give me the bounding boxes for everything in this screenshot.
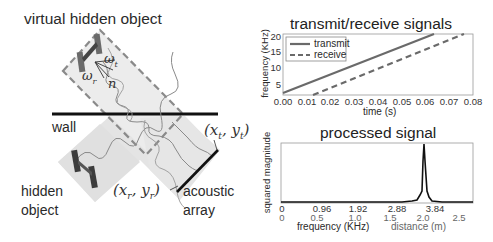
chart-processed-signal: processed signal 0 0.96 1.92 2.88 3.84 0… (252, 121, 493, 242)
svg-text:0.03: 0.03 (345, 96, 364, 107)
chart2-plot: 0 0.96 1.92 2.88 3.84 0 0.5 1.0 1.5 2.0 … (252, 121, 493, 242)
svg-text:0.06: 0.06 (416, 96, 435, 107)
svg-text:15: 15 (270, 46, 281, 57)
svg-text:0: 0 (279, 212, 284, 223)
chart1-yticks: 20 15 10 5 (270, 31, 281, 90)
label-wall: wall (52, 119, 76, 135)
svg-text:0.02: 0.02 (321, 96, 340, 107)
label-transmitter-coord: (xt, yt) (204, 121, 249, 141)
svg-text:2.5: 2.5 (452, 212, 465, 223)
svg-text:0.00: 0.00 (274, 96, 293, 107)
chart1-plot: 20 15 10 5 0.00 0.01 0.02 0.03 0.04 0.05… (252, 0, 493, 121)
label-normal: n (108, 76, 116, 91)
label-virtual-hidden-object: virtual hidden object (24, 10, 162, 28)
legend-receive: receive (314, 49, 346, 60)
label-acoustic-array-line1: acoustic (183, 183, 234, 199)
chart2-ylabel: squared magnitude (261, 127, 272, 219)
svg-text:5: 5 (276, 79, 281, 90)
chart1-xlabel: time (s) (363, 106, 396, 117)
svg-text:10: 10 (270, 62, 281, 73)
label-receiver-coord: (xr, yr) (113, 181, 160, 201)
svg-text:0.07: 0.07 (440, 96, 459, 107)
label-omega-r: ωr (82, 68, 96, 86)
scene-diagram: virtual hidden object wall hidden object… (0, 0, 262, 242)
legend-transmit: transmit (314, 38, 350, 49)
chart2-xlabel-distance: distance (m) (391, 221, 446, 232)
label-omega-t: ωt (104, 51, 118, 69)
chart-transmit-receive: transmit/receive signals 20 15 10 5 0.00… (252, 0, 493, 121)
label-acoustic-array-line2: array (183, 202, 215, 218)
label-hidden-object-line1: hidden (21, 183, 63, 199)
svg-text:0.08: 0.08 (464, 96, 483, 107)
chart2-axes (281, 143, 473, 203)
svg-text:20: 20 (270, 31, 281, 42)
chart2-xlabel-frequency: frequency (KHz) (297, 221, 369, 232)
svg-text:0.01: 0.01 (298, 96, 317, 107)
label-hidden-object-line2: object (21, 202, 58, 218)
chart1-ylabel: frequency (KHz) (259, 24, 270, 104)
